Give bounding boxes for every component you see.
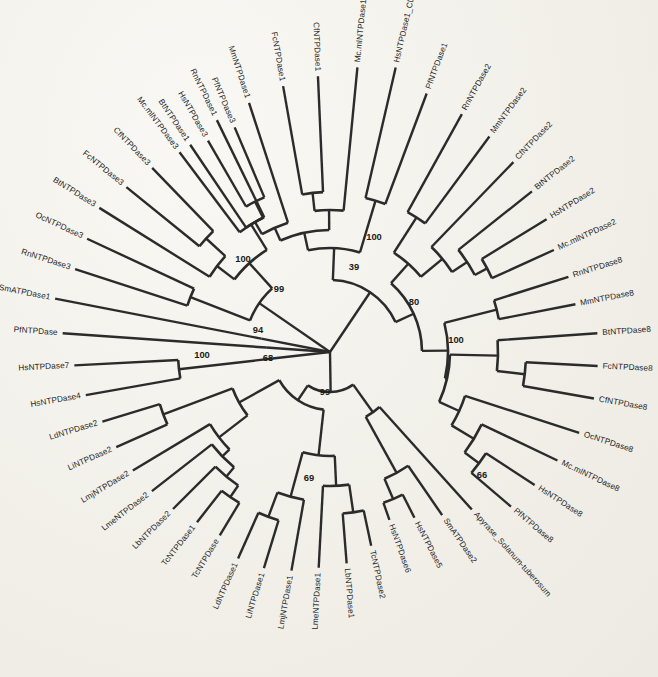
internal-branch (268, 493, 277, 517)
leaf-label-RnNTPDase3: RnNTPDase3 (20, 247, 72, 272)
branch-HsNTPDase2 (482, 219, 547, 259)
branch-TcNTPDase (220, 503, 240, 536)
branch-BtNTPDase8 (498, 333, 598, 340)
bootstrap-value: 100 (194, 349, 210, 360)
leaf-label-BtNTPDase3: BtNTPDase3 (52, 175, 98, 209)
phylogenetic-tree-diagram: 1003999801001009468100996966 MmNTPDase1R… (0, 0, 658, 677)
internal-branch (349, 485, 353, 513)
branch-HsNTPDase8 (486, 453, 535, 485)
leaf-label-MmNTPDase1: MmNTPDase1 (227, 45, 253, 100)
leaf-label-TcNTPDase1: TcNTPDase1 (160, 523, 198, 568)
branch-CfNTPDase2 (431, 162, 513, 247)
branch-HsNTPDase1_CD39 (366, 67, 396, 198)
internal-branch (450, 355, 498, 356)
bootstrap-value: 99 (320, 386, 330, 397)
bootstrap-value: 66 (477, 469, 487, 480)
internal-branch (226, 467, 234, 476)
internal-branch (217, 266, 235, 279)
internal-branch (475, 268, 487, 275)
leaf-label-TcNTPDase2: TcNTPDase2 (368, 550, 387, 600)
leaf-label-BtNTPDase2: BtNTPDase2 (533, 154, 577, 192)
leaf-label-MmNTPDase8: MmNTPDase8 (579, 288, 635, 307)
internal-branch (391, 264, 408, 283)
branch-SmATPDase1 (55, 299, 261, 339)
leaf-label-SmATPDase2: SmATPDase2 (442, 517, 479, 565)
leaf-label-Mc.mlNTPDase8: Mc.mlNTPDase8 (560, 458, 621, 493)
bootstrap-value: 69 (304, 472, 314, 483)
branch-LiNTPDase1 (264, 520, 279, 568)
bootstrap-value: 100 (366, 231, 382, 242)
internal-branch (179, 359, 272, 370)
internal-branch (163, 388, 232, 414)
branch-LbNTPDase2 (173, 467, 215, 509)
internal-branch (230, 486, 238, 498)
internal-branch (206, 239, 225, 257)
internal-branch (497, 371, 525, 374)
internal-branch (335, 456, 336, 486)
branch-FcNTPDase8 (526, 362, 598, 366)
branch-Mc.mlNTPDase3 (180, 152, 240, 232)
branch-PfNTPDase (63, 333, 267, 347)
internal-branch (395, 314, 413, 322)
leaf-label-MmNTPDase2: MmNTPDase2 (489, 85, 529, 135)
internal-branch (394, 217, 417, 252)
leaf-label-HsNTPDase2: HsNTPDase2 (548, 186, 597, 221)
leaf-label-LiNTPDase2: LiNTPDase2 (66, 445, 113, 473)
branch-RnNTPDase3 (75, 269, 187, 305)
internal-branch (360, 201, 376, 253)
branch-CfNTPDase8 (523, 386, 594, 399)
leaf-label-PfNTPDase3: PfNTPDase3 (210, 76, 237, 125)
bootstrap-value: 39 (349, 261, 359, 272)
internal-branch (465, 453, 479, 464)
leaf-label-LdNTPDase1: LdNTPDase1 (211, 561, 240, 611)
branch-FcNTPDase3 (126, 187, 199, 246)
bootstrap-value: 80 (409, 296, 419, 307)
branch-MmNTPDase2 (425, 137, 489, 224)
branch-LmeNTPDase1 (319, 486, 323, 568)
bootstrap-value: 94 (253, 324, 264, 335)
branch-BtNTPDase2 (458, 191, 532, 250)
leaf-label-Apyrase_Solanum: Apyrase_Solanum-tuberosum (472, 510, 553, 598)
leaf-label-FcNTPDase8: FcNTPDase8 (602, 361, 653, 373)
branch-LmjNTPDase2 (133, 424, 210, 470)
leaf-label-RnNTPDase2: RnNTPDase2 (460, 62, 493, 112)
leaf-label-HsNTPDase4: HsNTPDase4 (30, 391, 82, 409)
branch-OcNTPDase8 (465, 396, 579, 433)
leaf-label-PfNTPDase8: PfNTPDase8 (512, 506, 555, 545)
internal-branch (452, 425, 474, 438)
internal-branch (239, 380, 279, 402)
leaf-label-OcNTPDase3: OcNTPDase3 (34, 210, 85, 240)
branch-TcNTPDase1 (197, 491, 222, 523)
branch-LmeNTPDase2 (152, 444, 212, 491)
leaf-label-layer: MmNTPDase1RnNTPDase1BtNTPDase1FcNTPDase1… (0, 0, 653, 630)
branch-HsNTPDase5 (403, 495, 415, 518)
branch-Mc.mlNTPDase1 (344, 67, 358, 210)
leaf-label-LdNTPDase2: LdNTPDase2 (48, 418, 99, 441)
leaf-label-CfNTPDase2: CfNTPDase2 (513, 119, 554, 161)
leaf-label-OcNTPDase8: OcNTPDase8 (583, 430, 635, 455)
leaf-label-RnNTPDase8: RnNTPDase8 (572, 255, 624, 279)
internal-branch (330, 292, 370, 352)
internal-branch (249, 263, 272, 288)
clade-arc (439, 355, 450, 402)
branch-FcNTPDase1 (283, 86, 302, 194)
internal-branch (219, 415, 248, 437)
internal-branch (452, 262, 467, 272)
branch-LiNTPDase2 (116, 424, 167, 447)
branch-LbNTPDase1 (343, 514, 347, 564)
bootstrap-value-layer: 1003999801001009468100996966 (194, 231, 487, 483)
leaf-label-LmeNTPDase1: LmeNTPDase1 (311, 572, 323, 630)
branch-Apyrase_Solanum (380, 407, 472, 510)
internal-branch (366, 417, 397, 473)
branch-RnNTPDase8 (494, 277, 568, 300)
branch-MmNTPDase8 (499, 304, 576, 319)
leaf-label-CfNTPDase3: CfNTPDase3 (111, 125, 152, 167)
internal-branch (439, 402, 459, 411)
leaf-label-CfNTPDase8: CfNTPDase8 (598, 395, 648, 412)
leaf-label-FcNTPDase1: FcNTPDase1 (269, 31, 287, 82)
leaf-label-HsNTPDase5: HsNTPDase5 (413, 520, 444, 570)
bootstrap-value: 68 (263, 352, 273, 363)
branch-CfNTPDase3 (152, 168, 213, 231)
leaf-label-FcNTPDase3: FcNTPDase3 (81, 149, 126, 188)
leaf-label-LmjNTPDase2: LmjNTPDase2 (79, 469, 131, 505)
